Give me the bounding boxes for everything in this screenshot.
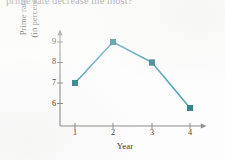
data-point-year-2 (110, 39, 115, 44)
x-axis (60, 123, 207, 128)
data-point-year-4 (187, 105, 192, 110)
chart-canvas (0, 0, 225, 160)
data-line (75, 42, 190, 108)
scanned-figure-page: prime rate decrease the most? Prime rate… (0, 0, 225, 160)
data-point-year-1 (72, 80, 77, 85)
y-axis (57, 30, 62, 127)
data-point-year-3 (149, 60, 154, 65)
line-chart: Prime rate (in percent) Year 9 8 7 6 1 2… (0, 0, 225, 160)
data-point-markers (72, 39, 192, 110)
